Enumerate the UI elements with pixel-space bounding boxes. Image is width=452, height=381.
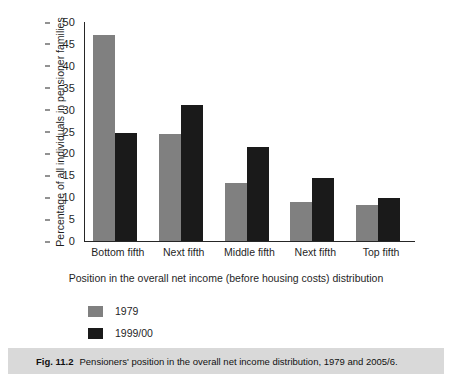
bar-group-bars [85,22,151,241]
bar-group: Next fifth [282,22,348,241]
bar-groups: Bottom fifthNext fifthMiddle fifthNext f… [85,22,414,241]
legend-swatch [88,306,103,317]
y-axis-tick-label: 45 [50,38,84,49]
y-axis-tick-label: 25 [50,126,84,137]
y-axis-tick-mark [45,44,50,45]
x-axis-tick-label: Next fifth [295,246,336,258]
bar-group: Next fifth [151,22,217,241]
y-axis-tick-mark [45,197,50,198]
y-axis-tick-label: 30 [50,104,84,115]
y-axis-line [84,22,85,242]
x-axis-tick-label: Bottom fifth [91,246,144,258]
y-axis-tick-label: 35 [50,82,84,93]
caption-band: Fig. 11.2Pensioners' position in the ove… [8,348,444,374]
y-axis-tick-label: 20 [50,148,84,159]
bar-1979[interactable] [225,183,247,241]
x-axis-line [84,241,415,242]
x-axis-tick-label: Middle fifth [224,246,275,258]
bar-1999-00[interactable] [247,147,269,241]
y-axis-tick-mark [45,175,50,176]
y-axis-tick-mark [45,66,50,67]
caption-text: Pensioners' position in the overall net … [80,356,398,367]
bar-group-bars [217,22,283,241]
bar-group-bars [282,22,348,241]
y-axis-tick-mark [45,219,50,220]
plot-area: Percentage of all individuals in pension… [84,22,414,241]
bar-1999-00[interactable] [115,133,137,241]
y-axis-tick-mark [45,22,50,23]
y-axis-tick-label: 10 [50,192,84,203]
y-axis-tick-label: 50 [50,17,84,28]
bar-1979[interactable] [290,202,312,241]
y-axis-tick-label: 40 [50,60,84,71]
legend-label: 1999/00 [115,327,153,339]
y-axis-tick-label: 0 [50,236,84,247]
bar-1999-00[interactable] [378,198,400,241]
y-axis-tick-mark [45,241,50,242]
bar-1979[interactable] [93,35,115,241]
legend-swatch [88,328,103,339]
bar-group: Top fifth [348,22,414,241]
bar-1999-00[interactable] [181,105,203,241]
bar-1979[interactable] [159,134,181,241]
legend-item[interactable]: 1979 [88,302,153,320]
y-axis-tick-mark [45,88,50,89]
bar-group-bars [348,22,414,241]
x-axis-title: Position in the overall net income (befo… [0,272,452,284]
bar-group: Bottom fifth [85,22,151,241]
x-axis-tick-label: Top fifth [363,246,400,258]
legend-item[interactable]: 1999/00 [88,324,153,342]
bar-1979[interactable] [356,205,378,241]
y-axis-tick-label: 5 [50,214,84,225]
legend: 19791999/00 [88,302,153,346]
y-axis-tick-label: 15 [50,170,84,181]
bar-group: Middle fifth [217,22,283,241]
y-axis-tick-mark [45,153,50,154]
x-axis-tick-label: Next fifth [163,246,204,258]
bar-group-bars [151,22,217,241]
legend-label: 1979 [115,305,138,317]
caption-text-row: Fig. 11.2Pensioners' position in the ove… [8,356,398,367]
caption-figure-number: Fig. 11.2 [36,356,74,367]
y-axis-tick-mark [45,110,50,111]
bar-1999-00[interactable] [312,178,334,241]
figure-container: Percentage of all individuals in pension… [0,0,452,381]
y-axis-tick-mark [45,132,50,133]
